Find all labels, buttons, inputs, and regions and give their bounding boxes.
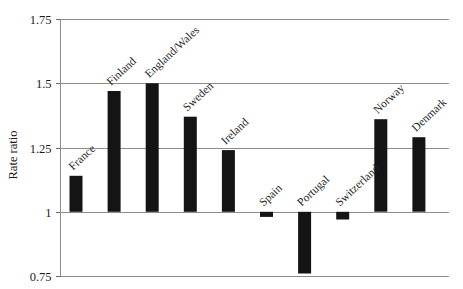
category-label: Sweden (180, 79, 215, 113)
category-label: Denmark (409, 96, 449, 134)
y-tick-label: 1 (45, 206, 51, 220)
bar-england-wales (146, 83, 159, 212)
category-label: Norway (371, 81, 407, 116)
y-tick-label: 1.5 (36, 77, 52, 91)
category-label: Switzerland (333, 162, 382, 208)
chart-canvas: 0.7511.251.51.75 FranceFinlandEngland/Wa… (0, 0, 463, 289)
category-label: Ireland (219, 115, 251, 146)
bar-spain (260, 212, 273, 217)
category-label: Finland (104, 55, 138, 88)
bar-chart: 0.7511.251.51.75 FranceFinlandEngland/Wa… (0, 0, 463, 289)
category-label: England/Wales (142, 23, 202, 80)
bar-sweden (184, 117, 197, 212)
category-label: France (66, 142, 97, 172)
y-tick-labels: 0.7511.251.51.75 (30, 13, 52, 284)
y-tick-label: 1.75 (30, 13, 52, 27)
axis-ticks (56, 20, 61, 277)
y-tick-label: 1.25 (30, 142, 52, 156)
category-labels: FranceFinlandEngland/WalesSwedenIrelandS… (66, 23, 449, 209)
bar-portugal (298, 212, 311, 274)
y-axis-title: Rate ratio (6, 131, 20, 180)
bar-finland (108, 91, 121, 212)
category-label: Spain (257, 181, 285, 209)
bar-denmark (412, 137, 425, 212)
y-tick-label: 0.75 (30, 270, 52, 284)
bar-switzerland (336, 212, 349, 220)
bar-france (70, 176, 83, 212)
category-label: Portugal (295, 173, 332, 209)
y-axis-title-group: Rate ratio (6, 131, 20, 180)
bar-ireland (222, 150, 235, 212)
